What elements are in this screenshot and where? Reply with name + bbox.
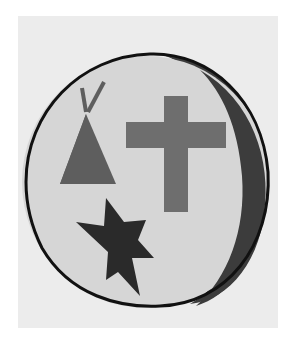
emblem xyxy=(0,0,299,360)
